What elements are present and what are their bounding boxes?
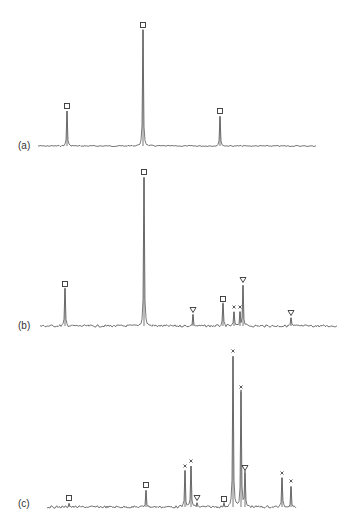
cross-marker-icon: [240, 386, 243, 389]
cross-marker-icon: [233, 306, 236, 309]
cross-marker-icon: [190, 460, 193, 463]
cross-marker-icon: [184, 465, 187, 468]
cross-marker-icon: [232, 350, 235, 353]
square-marker-icon: [144, 483, 149, 488]
square-marker-icon: [63, 282, 68, 287]
panel-label-b: (b): [18, 320, 30, 331]
cross-marker-icon: [281, 472, 284, 475]
triangle-marker-icon: [288, 311, 294, 316]
cross-marker-icon: [290, 480, 293, 483]
square-marker-icon: [142, 170, 147, 175]
panel-label-c: (c): [18, 498, 30, 509]
triangle-marker-icon: [242, 466, 248, 471]
peak-markers-c: [67, 350, 293, 502]
spectra-figure: (a) (b) (c): [0, 0, 357, 522]
square-marker-icon: [65, 104, 70, 109]
spectrum-panel-b: (b): [18, 170, 337, 332]
square-marker-icon: [67, 496, 72, 501]
cross-marker-icon: [239, 306, 242, 309]
square-marker-icon: [222, 497, 227, 502]
peak-markers-b: [63, 170, 295, 316]
square-marker-icon: [221, 297, 226, 302]
spectrum-trace-c: [47, 356, 296, 508]
triangle-marker-icon: [194, 496, 200, 501]
square-marker-icon: [218, 109, 223, 114]
panel-label-a: (a): [18, 140, 30, 151]
spectrum-panel-c: (c): [18, 350, 296, 510]
triangle-marker-icon: [190, 308, 196, 313]
square-marker-icon: [141, 23, 146, 28]
triangle-marker-icon: [240, 278, 246, 283]
spectrum-trace-a: [38, 30, 316, 147]
spectrum-panel-a: (a): [18, 23, 316, 152]
spectrum-trace-b: [40, 177, 337, 327]
